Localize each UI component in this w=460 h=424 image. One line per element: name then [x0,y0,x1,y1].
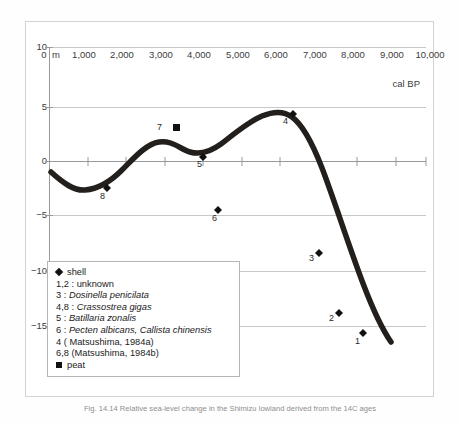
point-label-5: 5 [197,159,202,169]
data-point-2 [335,309,343,317]
point-label-8: 8 [100,191,105,201]
square-marker-icon [56,362,62,368]
legend-item-pecten: 6 : Pecten albicans, Callista chinensis [56,325,232,337]
legend-label-unknown: 1,2 : unknown [56,279,114,289]
figure-container: m cal BP 0 1,000 2,000 3,000 4,000 5,000… [0,0,460,424]
legend-label-peat: peat [67,360,85,370]
legend-prefix-batillaria: 5 : [56,313,69,323]
diamond-marker-icon [55,268,63,276]
legend-item-peat: peat [56,360,232,372]
point-label-3: 3 [309,253,314,263]
data-point-7-peat [173,124,180,131]
legend-item-shell: shell [56,267,232,279]
legend-label-dosinella: Dosinella penicilata [69,290,149,300]
point-label-6: 6 [212,213,217,223]
legend-prefix-crassostrea: 4,8 : [56,302,77,312]
legend-item-matsushima-a: 4 ( Matsushima, 1984a) [56,337,232,349]
legend-label-shell: shell [67,267,86,277]
legend-item-crassostrea: 4,8 : Crassostrea gigas [56,302,232,314]
legend-item-matsushima-b: 6,8 (Matsushima, 1984b) [56,348,232,360]
legend-item-unknown: 1,2 : unknown [56,279,232,291]
legend-prefix-pecten: 6 : [56,325,69,335]
legend-item-dosinella: 3 : Dosinella penicilata [56,290,232,302]
legend-label-crassostrea: Crassostrea gigas [77,302,152,312]
legend-label-batillaria: Batillaria zonalis [69,313,136,323]
legend-label-pecten: Pecten albicans, Callista chinensis [69,325,212,335]
legend-label-matsushima-b: 6,8 (Matsushima, 1984b) [56,348,159,358]
legend-label-matsushima-a: 4 ( Matsushima, 1984a) [56,337,154,347]
point-label-2: 2 [329,313,334,323]
data-point-1 [359,329,367,337]
point-label-1: 1 [355,336,360,346]
figure-caption: Fig. 14.14 Relative sea-level change in … [28,404,432,424]
point-label-7: 7 [157,122,162,132]
legend-prefix-dosinella: 3 : [56,290,69,300]
data-point-3 [315,249,323,257]
legend-item-batillaria: 5 : Batillaria zonalis [56,313,232,325]
chart-legend: shell 1,2 : unknown 3 : Dosinella penici… [47,261,240,377]
point-label-4: 4 [283,116,288,126]
